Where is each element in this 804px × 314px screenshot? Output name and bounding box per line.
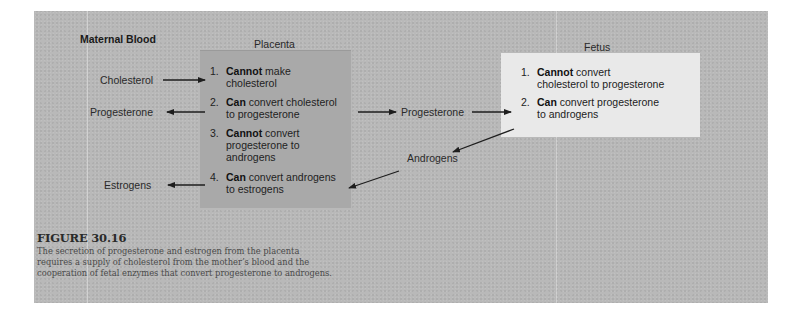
- arrow-androgens-to-placenta: [349, 171, 399, 188]
- arrow-fetus-to-androgens: [453, 129, 514, 152]
- figure-caption: The secretion of progesterone and estrog…: [37, 246, 337, 280]
- figure-title: FIGURE 30.16: [37, 231, 126, 245]
- figure-panel: Maternal Blood Placenta Fetus Cholestero…: [34, 11, 768, 303]
